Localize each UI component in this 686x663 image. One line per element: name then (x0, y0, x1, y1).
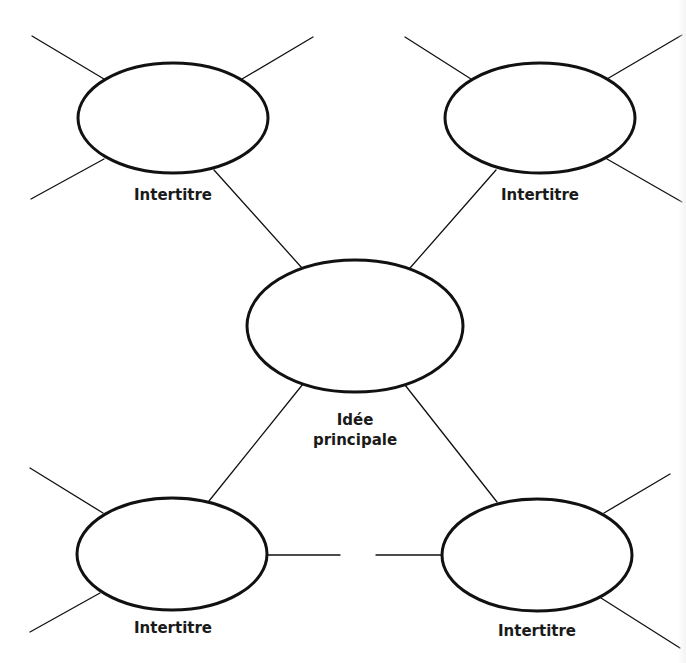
page-edge-shadow (678, 0, 686, 663)
branch-line (405, 37, 471, 79)
node-label-bottom-left: Intertitre (113, 618, 233, 638)
connector-bottom-right (405, 385, 497, 502)
branch-line (607, 35, 682, 79)
branch-line (607, 159, 682, 202)
center-label-line1: Idée (295, 410, 415, 430)
branch-line (601, 598, 680, 648)
node-label-top-right: Intertitre (480, 185, 600, 205)
branch-line (242, 37, 313, 79)
center-label: Idée principale (295, 410, 415, 450)
connector-bottom-left (209, 384, 303, 501)
node-ellipse-bottom-left (77, 498, 267, 610)
center-ellipse (247, 260, 463, 392)
branch-line (32, 36, 104, 79)
branch-line (604, 474, 670, 513)
node-ellipse-bottom-right (442, 499, 632, 611)
center-label-line2: principale (295, 430, 415, 450)
concept-map (0, 0, 686, 663)
node-ellipse-top-left (78, 63, 268, 173)
node-label-bottom-right: Intertitre (477, 621, 597, 641)
branch-line (30, 593, 100, 632)
node-ellipse-top-right (445, 63, 635, 173)
branch-line (30, 468, 103, 513)
node-label-top-left: Intertitre (113, 185, 233, 205)
branch-line (31, 159, 104, 199)
